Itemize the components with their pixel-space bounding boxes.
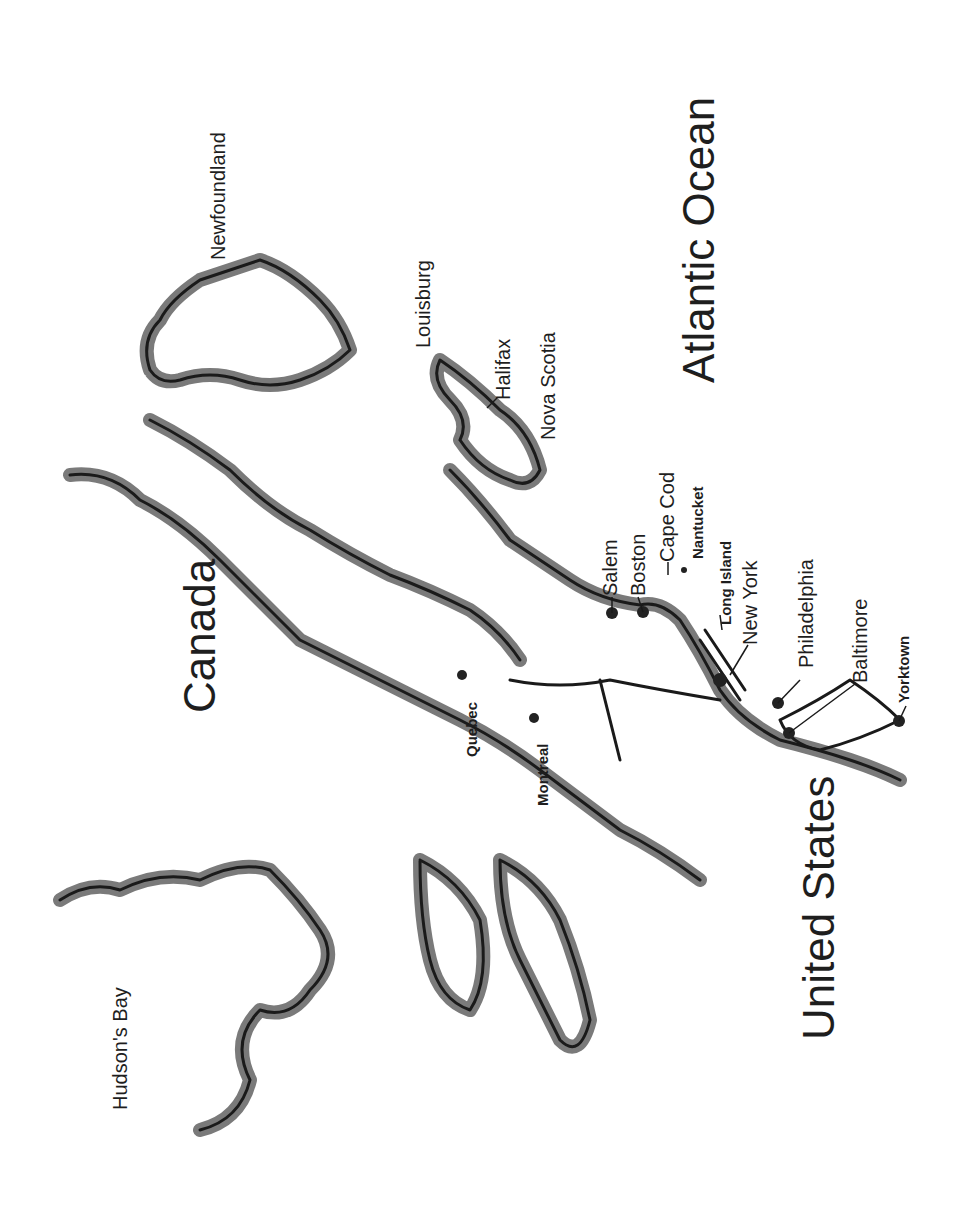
label-hudsons-bay: Hudson's Bay: [110, 987, 130, 1110]
label-cape-cod: Cape Cod: [657, 472, 677, 562]
label-philadelphia: Philadelphia: [796, 559, 816, 668]
label-canada: Canada: [178, 559, 222, 713]
label-long-island: Long Island: [718, 541, 733, 625]
label-nova-scotia: Nova Scotia: [538, 332, 558, 440]
label-boston: Boston: [628, 534, 648, 596]
label-halifax: Halifax: [493, 339, 513, 400]
label-new-york: New York: [740, 561, 760, 646]
label-baltimore: Baltimore: [850, 599, 870, 683]
label-yorktown: Yorktown: [896, 636, 911, 703]
label-united-states: United States: [797, 776, 841, 1040]
label-quebec: Quebec: [464, 702, 479, 757]
label-nantucket: Nantucket: [690, 486, 705, 559]
label-newfoundland: Newfoundland: [208, 132, 228, 260]
label-montreal: Montreal: [535, 743, 550, 806]
map-canvas: [0, 0, 974, 1230]
label-salem: Salem: [600, 539, 620, 596]
label-atlantic-ocean: Atlantic Ocean: [677, 97, 721, 383]
city-dots: [457, 567, 905, 739]
label-louisburg: Louisburg: [413, 260, 433, 348]
